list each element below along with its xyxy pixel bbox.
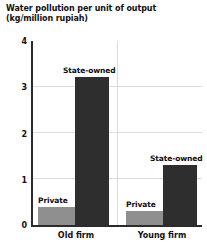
y-axis-tick-1: 1 bbox=[3, 177, 27, 185]
bar-old-firm-private[interactable] bbox=[38, 207, 75, 225]
chart-title-line-2: (kg/million rupiah) bbox=[6, 14, 204, 24]
y-axis-tick-4: 4 bbox=[3, 38, 27, 46]
chart-figure: Water pollution per unit of output (kg/m… bbox=[0, 0, 207, 250]
bar-young-firm-private[interactable] bbox=[126, 211, 163, 225]
chart-title: Water pollution per unit of output (kg/m… bbox=[6, 4, 204, 23]
y-axis-tick-2: 2 bbox=[3, 131, 27, 139]
x-axis-label-young-firm: Young firm bbox=[124, 231, 200, 240]
bar-young-firm-state-owned[interactable] bbox=[163, 165, 197, 225]
y-axis-tick-0: 0 bbox=[3, 222, 27, 230]
x-axis-label-old-firm: Old firm bbox=[38, 231, 114, 240]
bar-label-old-firm-state-owned: State-owned bbox=[63, 67, 116, 75]
group-divider bbox=[117, 41, 118, 225]
plot-inner: Private State-owned Private State-owned bbox=[33, 41, 202, 225]
bar-label-young-firm-private: Private bbox=[126, 201, 156, 209]
bar-label-young-firm-state-owned: State-owned bbox=[150, 155, 203, 163]
bar-old-firm-state-owned[interactable] bbox=[75, 77, 109, 225]
bar-label-old-firm-private: Private bbox=[38, 197, 68, 205]
chart-title-line-1: Water pollution per unit of output bbox=[6, 4, 156, 13]
y-axis-tick-3: 3 bbox=[3, 84, 27, 92]
plot-area: Private State-owned Private State-owned bbox=[31, 41, 202, 227]
